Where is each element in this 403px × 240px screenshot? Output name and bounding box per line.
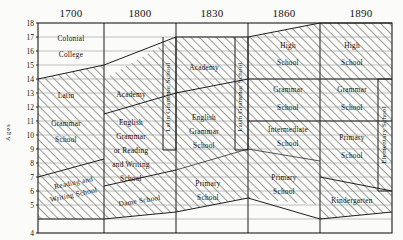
label-latin-grammar-school-1800: Latin Grammar School	[164, 62, 172, 132]
label-english-1800: English	[119, 118, 143, 127]
label-kindergarten: Kindergarten	[331, 196, 372, 205]
era-label-1800: 1800	[128, 7, 151, 19]
tick-7: 7	[30, 173, 34, 182]
era-label-1890: 1890	[349, 7, 372, 19]
y-axis-title: Ages	[4, 123, 11, 141]
chart-canvas: 1700 1800 1830 1860 1890	[0, 0, 403, 240]
label-high-1890: High	[344, 41, 360, 50]
tick-10: 10	[27, 131, 35, 140]
label-primary-1860: Primary	[271, 173, 296, 182]
label-school-1700: School	[55, 135, 77, 144]
tick-12: 12	[27, 103, 35, 112]
tick-14: 14	[27, 75, 35, 84]
label-latin: Latin	[58, 91, 75, 100]
label-high-school-1860: School	[277, 58, 299, 67]
tick-17: 17	[27, 33, 35, 42]
tick-11: 11	[27, 117, 34, 126]
label-academy-1800: Academy	[116, 90, 146, 99]
label-grammar-school-1860: School	[277, 103, 299, 112]
label-primary-school-1830: School	[197, 193, 219, 202]
label-grammar-1860: Grammar	[273, 85, 303, 94]
tick-18: 18	[27, 19, 35, 28]
label-latin-grammar-school-1830: Latin Grammar School	[236, 62, 244, 132]
label-grammar-1890: Grammar	[337, 85, 367, 94]
label-school-1800: School	[120, 174, 142, 183]
label-school-1830: School	[193, 141, 215, 150]
tick-16: 16	[27, 47, 35, 56]
label-or-reading: or Reading	[114, 146, 149, 155]
label-primary-1830: Primary	[195, 179, 220, 188]
label-grammar-1700: Grammar	[51, 119, 81, 128]
label-grammar-1830: Grammar	[189, 127, 219, 136]
era-label-1860: 1860	[272, 7, 295, 19]
label-grammar-1800: Grammar	[116, 132, 146, 141]
label-english-1830: English	[192, 113, 216, 122]
label-colonial: Colonial	[57, 34, 84, 43]
school-systems-chart: 1700 1800 1830 1860 1890	[0, 0, 403, 240]
label-intermediate-school: School	[277, 139, 299, 148]
label-college: College	[59, 50, 83, 59]
tick-8: 8	[30, 159, 34, 168]
label-academy-1830: Academy	[189, 63, 219, 72]
tick-9: 9	[30, 145, 34, 154]
tick-5: 5	[30, 201, 34, 210]
region-1830-upper-gap	[176, 23, 248, 37]
region-1700-lower-gap	[38, 219, 104, 233]
tick-15: 15	[27, 61, 35, 70]
era-label-1830: 1830	[200, 7, 223, 19]
label-grammar-school-1890: School	[341, 103, 363, 112]
label-primary-1890: Primary	[339, 133, 364, 142]
label-high-1860: High	[280, 41, 296, 50]
label-primary-school-1890: School	[341, 151, 363, 160]
tick-13: 13	[27, 89, 35, 98]
label-elementary-school: Elementary School	[380, 106, 388, 164]
tick-4: 4	[30, 229, 34, 238]
label-and-writing: and Writing	[112, 160, 149, 169]
label-high-school-1890: School	[341, 58, 363, 67]
era-label-1700: 1700	[59, 7, 82, 19]
label-primary-school-1860: School	[273, 187, 295, 196]
tick-6: 6	[30, 187, 34, 196]
label-intermediate: Intermediate	[268, 125, 308, 134]
